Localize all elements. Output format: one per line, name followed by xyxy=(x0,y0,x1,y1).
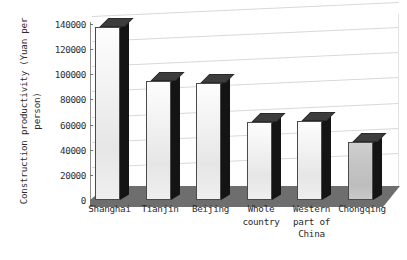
bar-chongqing xyxy=(348,142,373,200)
bar-front-face xyxy=(297,121,322,200)
y-axis-tick-mark xyxy=(90,24,93,25)
x-axis-label-tianjin: Tianjin xyxy=(134,203,186,216)
bar-side-face xyxy=(120,21,129,200)
bar-side-face xyxy=(221,77,230,200)
bar-chart: Construction productivity (Yuan per pers… xyxy=(0,0,407,260)
y-axis-tick-label: 0 xyxy=(42,195,86,206)
x-axis-label-line: Tianjin xyxy=(134,203,186,216)
bar-side-face xyxy=(171,75,180,200)
bar-front-face xyxy=(146,81,171,200)
plot-area: 020000400006000080000100000120000140000 … xyxy=(0,0,407,260)
x-axis-label-chongqing: Chongqing xyxy=(336,203,388,216)
back-wall-right-edge xyxy=(398,14,399,187)
bar-front-face xyxy=(247,122,272,200)
y-axis-tick-mark xyxy=(90,150,93,151)
y-axis-tick-labels: 020000400006000080000100000120000140000 xyxy=(42,0,86,260)
gridline xyxy=(92,77,399,92)
x-axis-label-line: Western xyxy=(286,203,338,216)
y-axis-tick-mark xyxy=(90,74,93,75)
bar-side-face xyxy=(272,116,281,200)
y-axis-tick-label: 120000 xyxy=(42,44,86,55)
gridline xyxy=(92,52,399,67)
y-axis-tick-label: 60000 xyxy=(42,119,86,130)
bar-tianjin xyxy=(146,81,171,200)
y-axis-tick-mark xyxy=(90,99,93,100)
x-axis-label-line: Beijing xyxy=(185,203,237,216)
x-axis-label-line: Chongqing xyxy=(336,203,388,216)
bar-side-face xyxy=(373,137,382,200)
gridline xyxy=(92,103,399,118)
gridline xyxy=(92,27,399,42)
y-axis-tick-label: 40000 xyxy=(42,144,86,155)
y-axis-tick-label: 100000 xyxy=(42,69,86,80)
x-axis-label-line: Shanghai xyxy=(84,203,136,216)
x-axis-label-line: Whole xyxy=(235,203,287,216)
bar-whole-country xyxy=(247,122,272,200)
x-axis-label-line: part of xyxy=(286,216,338,229)
bar-front-face xyxy=(95,27,120,200)
x-axis-label-western-part-of-china: Westernpart ofChina xyxy=(286,203,338,241)
y-axis-tick-label: 20000 xyxy=(42,169,86,180)
x-axis-label-line: China xyxy=(286,228,338,241)
x-axis-label-line: country xyxy=(235,216,287,229)
y-axis-tick-label: 80000 xyxy=(42,94,86,105)
y-axis-tick-mark xyxy=(90,125,93,126)
bar-beijing xyxy=(196,83,221,200)
y-axis-tick-label: 140000 xyxy=(42,19,86,30)
y-axis-tick-mark xyxy=(90,49,93,50)
bar-front-face xyxy=(348,142,373,200)
bar-side-face xyxy=(322,115,331,200)
bar-western-part-of-china xyxy=(297,121,322,200)
bar-front-face xyxy=(196,83,221,200)
x-axis-label-shanghai: Shanghai xyxy=(84,203,136,216)
x-axis-label-whole-country: Wholecountry xyxy=(235,203,287,228)
x-axis-label-beijing: Beijing xyxy=(185,203,237,216)
gridline xyxy=(92,2,399,17)
y-axis-tick-mark xyxy=(90,175,93,176)
bar-shanghai xyxy=(95,27,120,200)
